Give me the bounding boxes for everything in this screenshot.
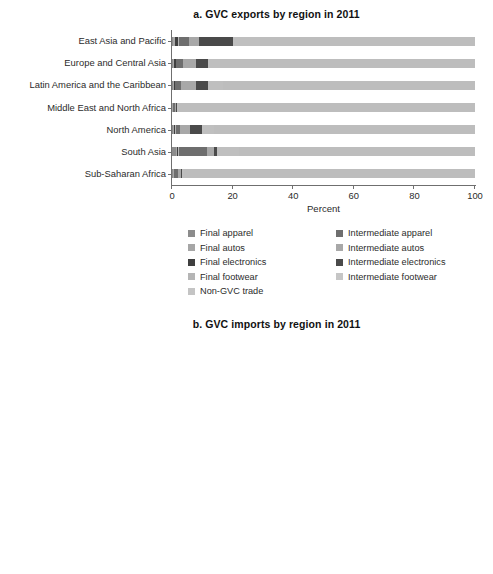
legend-item[interactable]: Intermediate apparel bbox=[336, 226, 446, 241]
legend-label: Final autos bbox=[200, 243, 245, 253]
x-axis-tick-label: 20 bbox=[227, 190, 237, 201]
legend-item[interactable]: Non-GVC trade bbox=[188, 284, 336, 299]
y-axis-label: Europe and Central Asia bbox=[64, 58, 166, 67]
bar-segment[interactable] bbox=[217, 147, 239, 156]
bar-segment[interactable] bbox=[199, 37, 232, 46]
panel-a-plot-area: East Asia and PacificEurope and Central … bbox=[172, 30, 475, 185]
legend-swatch-icon bbox=[336, 244, 343, 251]
y-axis-label: South Asia bbox=[121, 147, 166, 156]
bar-segment[interactable] bbox=[176, 59, 183, 68]
legend-swatch-icon bbox=[188, 288, 195, 295]
panel-a-legend: Final apparelFinal autosFinal electronic… bbox=[188, 226, 446, 299]
y-axis-label: Sub-Saharan Africa bbox=[85, 169, 166, 178]
x-axis-tick-label: 0 bbox=[169, 190, 174, 201]
legend-item[interactable]: Final apparel bbox=[188, 226, 336, 241]
x-axis-tick bbox=[474, 185, 475, 189]
bar-segment[interactable] bbox=[180, 125, 190, 134]
legend-swatch-icon bbox=[188, 230, 195, 237]
x-axis-tick-label: 80 bbox=[409, 190, 419, 201]
legend-item[interactable]: Final electronics bbox=[188, 255, 336, 270]
bar-segment[interactable] bbox=[196, 59, 208, 68]
bar-segment[interactable] bbox=[220, 59, 475, 68]
x-axis-tick bbox=[171, 185, 172, 189]
bar-segment[interactable] bbox=[189, 37, 199, 46]
bar-segment[interactable] bbox=[239, 147, 475, 156]
bar-segment[interactable] bbox=[208, 81, 223, 90]
bar-row[interactable]: South Asia bbox=[172, 147, 475, 156]
x-axis-tick-label: 100 bbox=[467, 190, 483, 201]
bar-segment[interactable] bbox=[223, 81, 474, 90]
legend-swatch-icon bbox=[336, 230, 343, 237]
legend-label: Intermediate autos bbox=[348, 243, 424, 253]
panel-b-title: b. GVC imports by region in 2011 bbox=[0, 318, 493, 330]
bar-row[interactable]: Middle East and North Africa bbox=[172, 103, 475, 112]
bar-segment[interactable] bbox=[208, 59, 220, 68]
gvc-trade-figure: a. GVC exports by region in 2011 East As… bbox=[0, 0, 493, 574]
panel-a-title: a. GVC exports by region in 2011 bbox=[0, 8, 493, 20]
panel-gvc-exports: a. GVC exports by region in 2011 East As… bbox=[0, 0, 493, 305]
bar-segment[interactable] bbox=[260, 37, 475, 46]
legend-swatch-icon bbox=[188, 244, 195, 251]
legend-swatch-icon bbox=[336, 273, 343, 280]
panel-gvc-imports: b. GVC imports by region in 2011 East As… bbox=[0, 305, 493, 574]
panel-a-legend-column-left: Final apparelFinal autosFinal electronic… bbox=[188, 226, 336, 299]
bar-segment[interactable] bbox=[178, 103, 475, 112]
bar-segment[interactable] bbox=[179, 37, 189, 46]
y-axis-label: Middle East and North Africa bbox=[47, 103, 166, 112]
bar-row[interactable]: Latin America and the Caribbean bbox=[172, 81, 475, 90]
bar-segment[interactable] bbox=[202, 125, 214, 134]
x-axis-tick bbox=[353, 185, 354, 189]
x-axis-tick bbox=[292, 185, 293, 189]
bar-row[interactable]: North America bbox=[172, 125, 475, 134]
bar-segment[interactable] bbox=[233, 37, 260, 46]
bar-row[interactable]: Sub-Saharan Africa bbox=[172, 169, 475, 178]
bar-segment[interactable] bbox=[214, 125, 475, 134]
legend-item[interactable]: Intermediate footwear bbox=[336, 270, 446, 285]
y-axis-label: Latin America and the Caribbean bbox=[29, 80, 166, 89]
bar-segment[interactable] bbox=[190, 125, 202, 134]
panel-a-legend-column-right: Intermediate apparelIntermediate autosIn… bbox=[336, 226, 446, 299]
legend-label: Final electronics bbox=[200, 257, 266, 267]
panel-a-x-axis-title: Percent bbox=[172, 203, 475, 214]
legend-swatch-icon bbox=[188, 259, 195, 266]
bar-segment[interactable] bbox=[179, 147, 206, 156]
bar-segment[interactable] bbox=[183, 59, 196, 68]
legend-item[interactable]: Final autos bbox=[188, 241, 336, 256]
x-axis-tick bbox=[232, 185, 233, 189]
legend-item[interactable]: Intermediate electronics bbox=[336, 255, 446, 270]
x-axis-tick-label: 40 bbox=[288, 190, 298, 201]
legend-label: Non-GVC trade bbox=[200, 286, 263, 296]
legend-swatch-icon bbox=[188, 273, 195, 280]
bar-segment[interactable] bbox=[196, 81, 208, 90]
legend-swatch-icon bbox=[336, 259, 343, 266]
legend-label: Intermediate apparel bbox=[348, 228, 432, 238]
y-axis-label: North America bbox=[107, 125, 166, 134]
legend-item[interactable]: Intermediate autos bbox=[336, 241, 446, 256]
bar-row[interactable]: Europe and Central Asia bbox=[172, 59, 475, 68]
x-axis-tick bbox=[413, 185, 414, 189]
panel-a-x-axis-labels: Percent 020406080100 bbox=[172, 185, 475, 219]
bar-row[interactable]: East Asia and Pacific bbox=[172, 37, 475, 46]
legend-label: Intermediate electronics bbox=[348, 257, 446, 267]
bar-segment[interactable] bbox=[207, 147, 215, 156]
bar-segment[interactable] bbox=[181, 81, 196, 90]
bar-segment[interactable] bbox=[184, 169, 475, 178]
legend-item[interactable]: Final footwear bbox=[188, 270, 336, 285]
y-axis-label: East Asia and Pacific bbox=[78, 36, 166, 45]
legend-label: Final apparel bbox=[200, 228, 253, 238]
x-axis-tick-label: 60 bbox=[349, 190, 359, 201]
legend-label: Final footwear bbox=[200, 272, 258, 282]
legend-label: Intermediate footwear bbox=[348, 272, 437, 282]
